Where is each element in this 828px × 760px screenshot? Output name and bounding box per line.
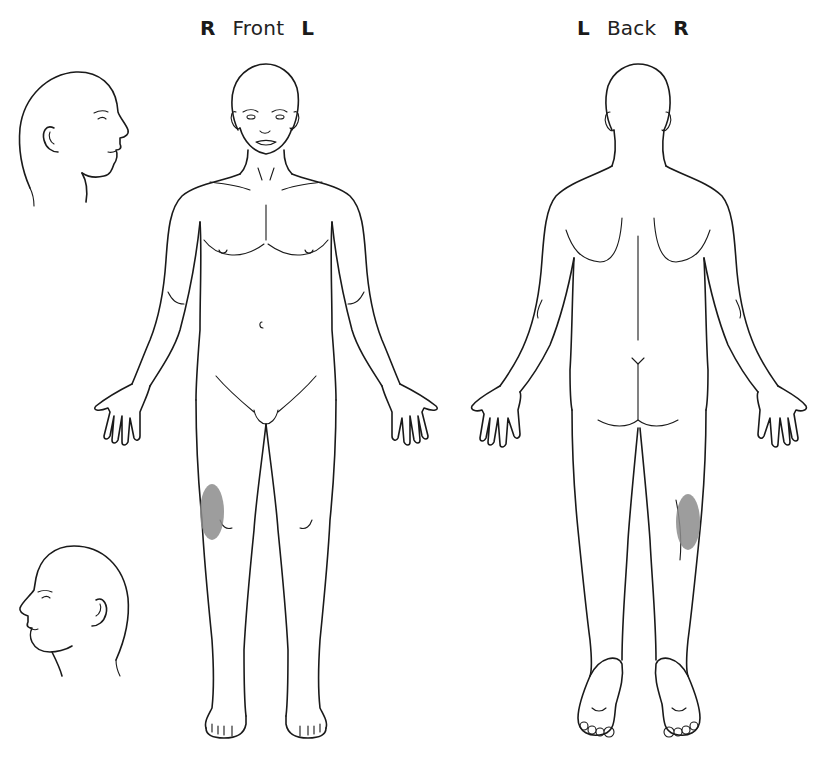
front-knee-annotation: [200, 484, 224, 540]
head-profile-left: [20, 546, 129, 676]
back-knee-annotation: [676, 494, 700, 550]
head-profile-right: [19, 72, 128, 206]
body-diagram: [0, 0, 828, 760]
body-back: [472, 64, 807, 737]
body-front: [95, 64, 438, 738]
